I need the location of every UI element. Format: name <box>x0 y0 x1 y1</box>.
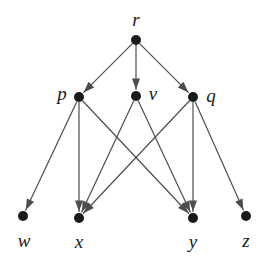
graph-node-q[interactable] <box>188 92 198 102</box>
edge-arrowhead <box>26 198 34 210</box>
graph-edge <box>138 101 190 212</box>
edge-arrowhead <box>75 201 83 212</box>
graph-node-v[interactable] <box>131 91 141 101</box>
node-label-y: y <box>189 232 197 251</box>
graph-node-z[interactable] <box>241 211 251 221</box>
node-label-w: w <box>18 231 31 250</box>
node-label-q: q <box>206 86 216 105</box>
graph-canvas <box>0 0 271 259</box>
node-label-p: p <box>57 84 67 103</box>
graph-edge <box>195 102 243 210</box>
nodes-layer <box>18 35 251 223</box>
graph-node-x[interactable] <box>74 213 84 223</box>
edge-arrowhead <box>132 79 140 90</box>
node-label-v: v <box>149 84 157 103</box>
node-label-r: r <box>132 10 139 29</box>
graph-edge <box>82 101 134 212</box>
directed-graph-figure: rpvqwxyz <box>0 0 271 259</box>
node-label-x: x <box>75 232 83 251</box>
graph-edge <box>26 102 77 210</box>
node-label-z: z <box>242 231 249 250</box>
edges-layer <box>26 44 244 213</box>
edge-arrowhead <box>189 201 197 212</box>
graph-node-r[interactable] <box>131 35 141 45</box>
graph-node-w[interactable] <box>18 211 28 221</box>
graph-node-p[interactable] <box>74 92 84 102</box>
graph-node-y[interactable] <box>188 213 198 223</box>
edge-arrowhead <box>235 198 243 210</box>
